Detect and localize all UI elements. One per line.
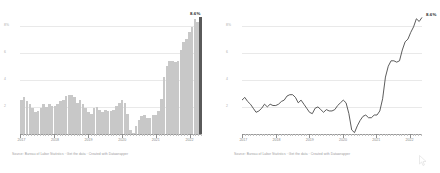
x-axis-tick xyxy=(57,134,58,136)
x-axis-tick xyxy=(399,134,400,136)
line-series xyxy=(242,12,422,134)
x-axis-tick xyxy=(270,134,271,136)
x-axis-tick xyxy=(105,134,106,136)
x-axis-tick xyxy=(248,134,249,136)
x-axis-tick xyxy=(164,134,165,136)
x-axis-tick xyxy=(329,134,330,136)
bar-chart-source-caption: Source: Bureau of Labor Statistics · Get… xyxy=(12,152,128,156)
x-axis-tick xyxy=(295,134,296,136)
x-axis-tick xyxy=(91,134,92,136)
y-axis-tick-label: 4 xyxy=(226,77,228,81)
x-axis-tick xyxy=(415,134,416,136)
x-axis-tick xyxy=(273,134,274,136)
x-axis-tick xyxy=(376,134,377,138)
x-axis-year-label: 2022 xyxy=(185,138,193,142)
x-axis-tick xyxy=(74,134,75,136)
x-axis-tick xyxy=(315,134,316,136)
x-axis-tick xyxy=(40,134,41,136)
x-axis-tick xyxy=(284,134,285,136)
bar-x-axis-labels: 201720182019202020212022 xyxy=(20,138,202,146)
line-chart-source-caption: Source: Bureau of Labor Statistics · Get… xyxy=(234,152,350,156)
x-axis-tick xyxy=(253,134,254,136)
x-axis-tick xyxy=(368,134,369,136)
x-axis-tick xyxy=(242,134,243,138)
x-axis-tick xyxy=(193,134,194,136)
x-axis-tick xyxy=(130,134,131,136)
x-axis-tick xyxy=(250,134,251,136)
line-plot-area: 8%642 xyxy=(242,12,422,134)
x-axis-tick xyxy=(82,134,83,136)
x-axis-tick xyxy=(54,134,55,138)
x-axis-tick xyxy=(410,134,411,138)
x-axis-tick xyxy=(404,134,405,136)
line-path xyxy=(242,17,422,132)
x-axis-tick xyxy=(142,134,143,136)
bar-chart-panel: 8%642 201720182019202020212022 8.6% Sour… xyxy=(0,0,220,173)
x-axis-tick xyxy=(393,134,394,136)
x-axis-tick xyxy=(262,134,263,136)
x-axis-tick xyxy=(65,134,66,136)
x-axis-year-label: 2020 xyxy=(118,138,126,142)
x-axis-year-label: 2020 xyxy=(339,138,347,142)
x-axis-tick xyxy=(278,134,279,136)
x-axis-tick xyxy=(312,134,313,136)
x-axis-tick xyxy=(320,134,321,136)
x-axis-tick xyxy=(127,134,128,136)
x-axis-tick xyxy=(407,134,408,136)
x-axis-tick xyxy=(187,134,188,136)
x-axis-tick xyxy=(31,134,32,136)
x-axis-tick xyxy=(276,134,277,138)
x-axis-tick xyxy=(337,134,338,136)
x-axis-tick xyxy=(147,134,148,136)
x-axis-tick xyxy=(290,134,291,136)
y-axis-tick-label: 2 xyxy=(4,104,6,108)
x-axis-tick xyxy=(387,134,388,136)
x-axis-tick xyxy=(170,134,171,136)
x-axis-tick xyxy=(176,134,177,136)
x-axis-tick xyxy=(150,134,151,136)
mouse-pointer-icon xyxy=(419,155,427,166)
x-axis-tick xyxy=(371,134,372,136)
x-axis-tick xyxy=(309,134,310,138)
x-axis-tick xyxy=(365,134,366,136)
x-axis-tick xyxy=(139,134,140,136)
x-axis-tick xyxy=(334,134,335,136)
x-axis-tick xyxy=(267,134,268,136)
x-axis-tick xyxy=(382,134,383,136)
x-axis-tick xyxy=(259,134,260,136)
x-axis-tick xyxy=(354,134,355,136)
x-axis-tick xyxy=(79,134,80,136)
x-axis-year-label: 2019 xyxy=(85,138,93,142)
x-axis-tick xyxy=(116,134,117,136)
x-axis-tick xyxy=(45,134,46,136)
x-axis-tick xyxy=(184,134,185,136)
x-axis-tick xyxy=(43,134,44,136)
x-axis-tick xyxy=(173,134,174,136)
x-axis-year-label: 2018 xyxy=(273,138,281,142)
x-axis-tick xyxy=(318,134,319,136)
line-chart-panel: 8%642 201720182019202020212022 8.6% Sour… xyxy=(220,0,440,173)
x-axis-tick xyxy=(413,134,414,136)
x-axis-tick xyxy=(292,134,293,136)
bar[interactable] xyxy=(199,17,202,134)
x-axis-tick xyxy=(88,134,89,138)
x-axis-tick xyxy=(99,134,100,136)
x-axis-tick xyxy=(418,134,419,136)
x-axis-tick xyxy=(156,134,157,138)
x-axis-tick xyxy=(385,134,386,136)
x-axis-tick xyxy=(96,134,97,136)
x-axis-tick xyxy=(362,134,363,136)
x-axis-tick xyxy=(379,134,380,136)
x-axis-tick xyxy=(396,134,397,136)
x-axis-tick xyxy=(37,134,38,136)
y-axis-tick-label: 6 xyxy=(226,50,228,54)
y-axis-tick-label: 4 xyxy=(4,77,6,81)
x-axis-tick xyxy=(323,134,324,136)
x-axis-tick xyxy=(332,134,333,136)
y-axis-tick-label: 8% xyxy=(4,23,9,27)
x-axis-tick xyxy=(51,134,52,136)
x-axis-tick xyxy=(181,134,182,136)
x-axis-tick xyxy=(119,134,120,136)
y-axis-tick-label: 8% xyxy=(226,23,231,27)
x-axis-tick xyxy=(304,134,305,136)
